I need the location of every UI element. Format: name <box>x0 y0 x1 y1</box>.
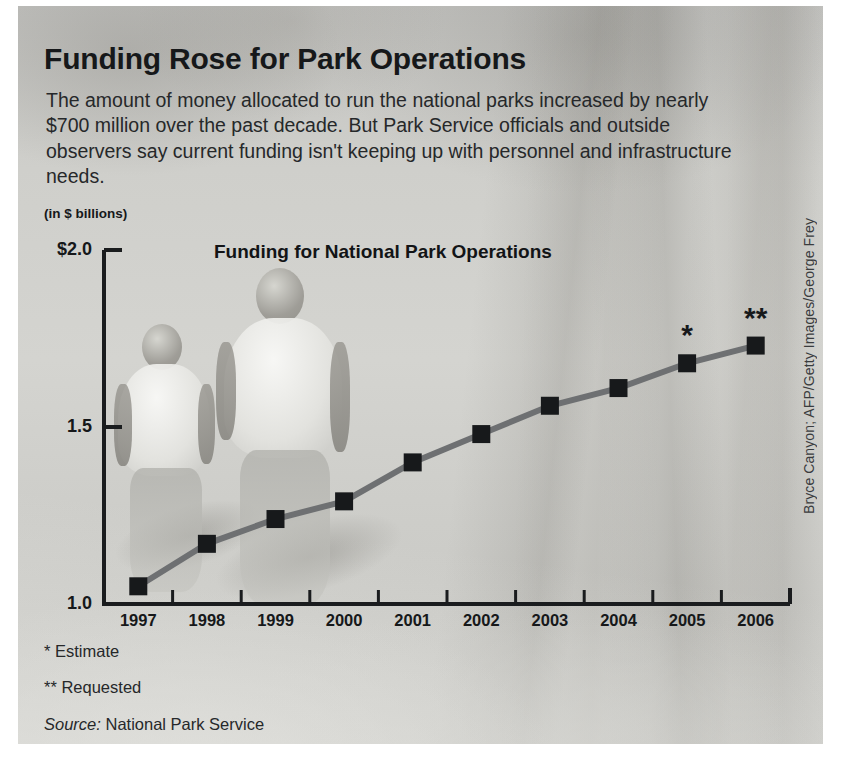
chart-data-markers <box>129 337 764 596</box>
infographic-panel: Funding Rose for Park Operations The amo… <box>18 6 823 744</box>
x-tick-label-2004: 2004 <box>588 611 650 630</box>
footnote-estimate: * Estimate <box>44 642 119 661</box>
photo-credit: Bryce Canyon; AFP/Getty Images/George Fr… <box>801 218 817 514</box>
line-chart: *** <box>18 6 823 744</box>
footnote-requested: ** Requested <box>44 678 141 697</box>
y-tick-label-2: $2.0 <box>22 239 92 260</box>
x-tick-label-2003: 2003 <box>519 611 581 630</box>
x-tick-label-2001: 2001 <box>382 611 444 630</box>
source-line: Source: National Park Service <box>44 715 264 734</box>
x-tick-label-2002: 2002 <box>450 611 512 630</box>
x-tick-label-2006: 2006 <box>725 611 787 630</box>
x-tick-label-1999: 1999 <box>245 611 307 630</box>
y-tick-label-0: 1.0 <box>22 593 92 614</box>
chart-series-line <box>138 346 755 587</box>
x-tick-label-1997: 1997 <box>107 611 169 630</box>
svg-text:**: ** <box>744 301 768 334</box>
svg-text:*: * <box>681 318 693 351</box>
chart-x-ticks <box>173 590 722 604</box>
source-label: Source: <box>44 715 101 733</box>
x-tick-label-2005: 2005 <box>656 611 718 630</box>
y-tick-label-1: 1.5 <box>22 416 92 437</box>
x-tick-label-2000: 2000 <box>313 611 375 630</box>
source-value: National Park Service <box>101 715 264 733</box>
x-tick-label-1998: 1998 <box>176 611 238 630</box>
